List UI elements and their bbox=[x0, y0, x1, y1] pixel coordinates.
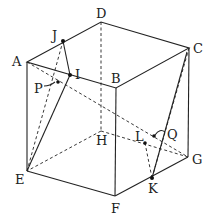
segment-EJ bbox=[27, 41, 63, 171]
diagonal-AG bbox=[27, 62, 188, 157]
label-F: F bbox=[111, 201, 120, 216]
label-D: D bbox=[96, 6, 106, 21]
label-I: I bbox=[75, 67, 80, 82]
point-K bbox=[150, 176, 154, 180]
label-A: A bbox=[11, 54, 22, 69]
point-P bbox=[56, 80, 60, 84]
point-J bbox=[61, 39, 65, 43]
edge-BF bbox=[115, 88, 116, 196]
point-L bbox=[143, 141, 147, 145]
edge-EF bbox=[27, 171, 115, 196]
point-I bbox=[68, 73, 72, 77]
label-B: B bbox=[111, 71, 121, 86]
label-J: J bbox=[50, 28, 57, 43]
label-C: C bbox=[193, 41, 203, 56]
label-L: L bbox=[135, 129, 144, 144]
label-P: P bbox=[34, 81, 43, 96]
label-G: G bbox=[192, 152, 202, 167]
cube-diagram: D C A B J I P H L Q G E K F bbox=[0, 0, 213, 221]
label-E: E bbox=[15, 172, 25, 187]
segment-CK bbox=[152, 52, 187, 178]
pointer-P bbox=[44, 82, 55, 86]
label-K: K bbox=[148, 181, 158, 196]
point-Q bbox=[152, 134, 156, 138]
pointer-Q bbox=[155, 131, 165, 135]
edge-HE bbox=[27, 131, 101, 171]
segment-KL bbox=[145, 143, 152, 178]
edge-CG bbox=[188, 48, 189, 157]
label-Q: Q bbox=[167, 127, 178, 142]
label-H: H bbox=[96, 133, 107, 148]
segment-JI bbox=[63, 41, 70, 75]
